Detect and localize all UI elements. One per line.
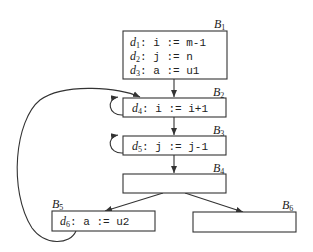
svg-text:B4: B4	[213, 161, 224, 176]
svg-text:B1: B1	[214, 17, 225, 32]
svg-text:d1: i := m-1: d1: i := m-1	[130, 35, 206, 50]
flow-graph-canvas: B1 d1: i := m-1 d2: j := n d3: a := u1 B…	[0, 0, 313, 252]
edge-b4-b6	[185, 193, 243, 212]
svg-text:d6: a := u2: d6: a := u2	[60, 214, 129, 229]
self-loop-b3	[110, 135, 123, 153]
svg-text:B6: B6	[282, 198, 293, 213]
svg-text:d3: a := u1: d3: a := u1	[130, 63, 200, 78]
svg-text:d2: j := n: d2: j := n	[130, 49, 193, 64]
svg-text:B5: B5	[52, 197, 63, 212]
svg-text:d5: j := j-1: d5: j := j-1	[132, 139, 208, 154]
svg-text:B2: B2	[213, 85, 224, 100]
block-b6: B6	[193, 198, 296, 232]
block-b1: B1 d1: i := m-1 d2: j := n d3: a := u1	[123, 17, 227, 79]
svg-text:d4: i := i+1: d4: i := i+1	[132, 101, 208, 116]
self-loop-b2	[110, 97, 123, 115]
svg-text:B3: B3	[213, 123, 224, 138]
edge-b4-b5	[105, 193, 163, 211]
block-b5: B5 d6: a := u2	[52, 197, 155, 231]
